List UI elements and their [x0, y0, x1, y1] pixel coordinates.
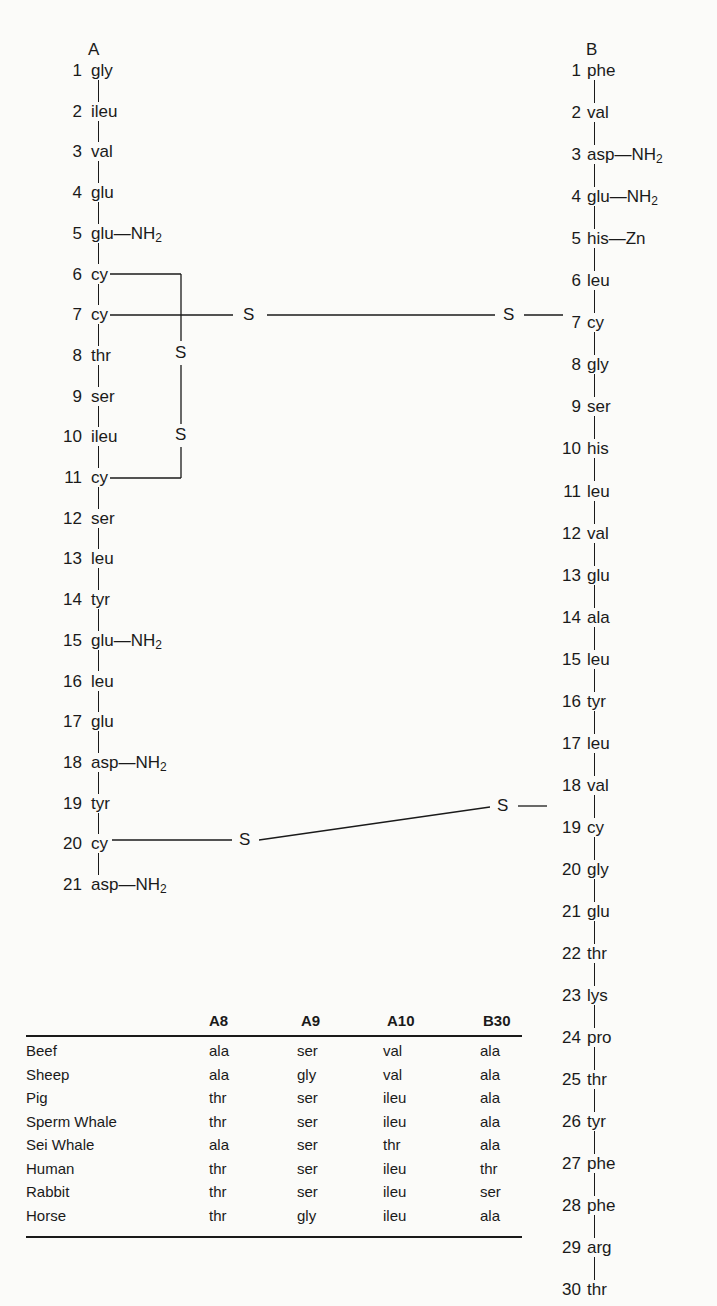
table-cell-a10: ileu — [383, 1183, 406, 1201]
table-cell-a9: ser — [297, 1113, 318, 1131]
species-name: Pig — [26, 1089, 48, 1107]
sulfur-label: S — [175, 425, 186, 445]
species-name: Horse — [26, 1207, 66, 1225]
table-cell-a8: thr — [209, 1207, 227, 1225]
table-cell-a8: thr — [209, 1113, 227, 1131]
column-header-a8: A8 — [209, 1012, 228, 1029]
table-cell-a9: gly — [297, 1066, 316, 1084]
table-cell-a8: ala — [209, 1136, 229, 1154]
table-cell-a9: ser — [297, 1089, 318, 1107]
column-header-a9: A9 — [301, 1012, 320, 1029]
species-name: Sheep — [26, 1066, 69, 1084]
disulfide-bond-lines — [0, 0, 717, 1306]
table-cell-a8: thr — [209, 1160, 227, 1178]
sulfur-label: S — [497, 796, 508, 816]
table-cell-a8: thr — [209, 1183, 227, 1201]
table-cell-b30: ala — [480, 1089, 500, 1107]
table-cell-a10: val — [383, 1066, 402, 1084]
table-cell-a9: ser — [297, 1183, 318, 1201]
table-cell-a9: ser — [297, 1136, 318, 1154]
sulfur-label: S — [175, 343, 186, 363]
table-cell-a10: ileu — [383, 1113, 406, 1131]
table-cell-b30: ser — [480, 1183, 501, 1201]
table-cell-a10: ileu — [383, 1207, 406, 1225]
table-cell-a10: ileu — [383, 1160, 406, 1178]
table-cell-a8: thr — [209, 1089, 227, 1107]
table-bottom-rule — [26, 1236, 522, 1238]
table-cell-a8: ala — [209, 1042, 229, 1060]
column-header-b30: B30 — [483, 1012, 511, 1029]
table-cell-a10: ileu — [383, 1089, 406, 1107]
sulfur-label: S — [503, 305, 514, 325]
sulfur-label: S — [239, 830, 250, 850]
table-cell-a8: ala — [209, 1066, 229, 1084]
table-cell-b30: ala — [480, 1042, 500, 1060]
table-cell-a9: ser — [297, 1042, 318, 1060]
table-cell-b30: ala — [480, 1207, 500, 1225]
table-cell-b30: ala — [480, 1066, 500, 1084]
table-cell-a10: thr — [383, 1136, 401, 1154]
table-cell-a9: gly — [297, 1207, 316, 1225]
species-name: Sperm Whale — [26, 1113, 117, 1131]
table-cell-a9: ser — [297, 1160, 318, 1178]
table-cell-b30: thr — [480, 1160, 498, 1178]
table-cell-a10: val — [383, 1042, 402, 1060]
species-name: Human — [26, 1160, 74, 1178]
table-cell-b30: ala — [480, 1113, 500, 1131]
species-name: Beef — [26, 1042, 57, 1060]
column-header-a10: A10 — [387, 1012, 415, 1029]
sulfur-label: S — [243, 305, 254, 325]
species-name: Rabbit — [26, 1183, 69, 1201]
species-name: Sei Whale — [26, 1136, 94, 1154]
table-cell-b30: ala — [480, 1136, 500, 1154]
table-top-rule — [26, 1035, 522, 1037]
